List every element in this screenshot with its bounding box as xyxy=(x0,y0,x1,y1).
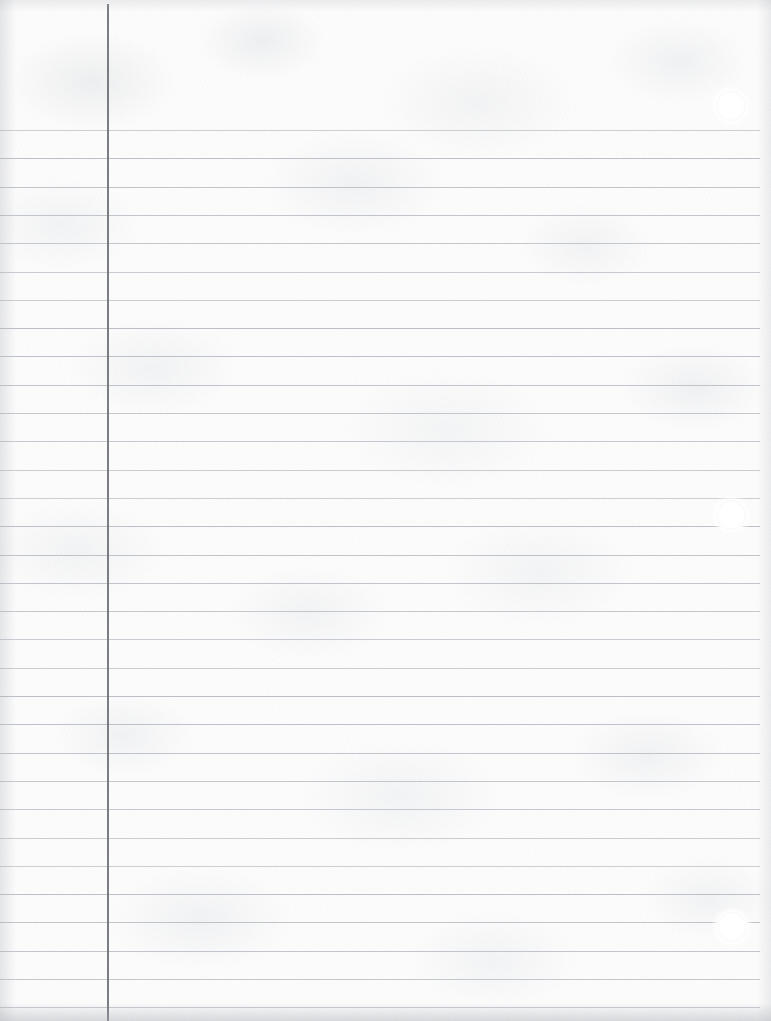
notebook-paper-sheet: Ruled Notebook Paper xyxy=(0,0,771,1021)
hole-punch-top xyxy=(716,91,746,121)
hole-punch-bottom xyxy=(717,912,747,942)
paper-background xyxy=(0,0,771,1021)
left-margin-rule xyxy=(107,4,109,1021)
hole-punch-middle xyxy=(716,500,746,530)
